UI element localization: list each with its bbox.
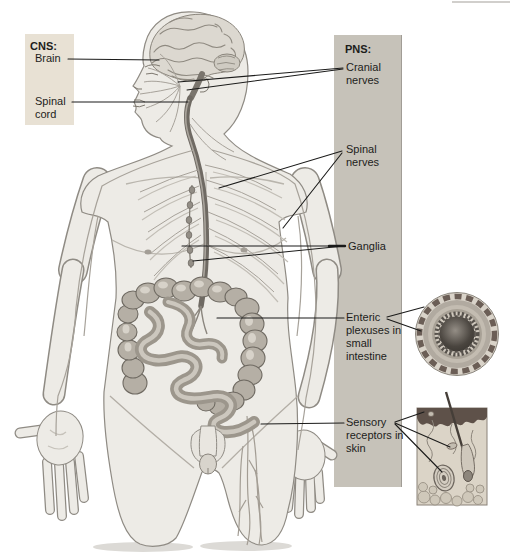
label-spinal-nerves: Spinal nerves (346, 143, 398, 169)
pns-heading: PNS: (345, 43, 371, 56)
right-arm (305, 182, 328, 397)
cerebellum (214, 54, 240, 72)
figure-canvas: CNS: Brain Spinal cord PNS: Cranial nerv… (0, 0, 510, 559)
label-enteric-plexuses: Enteric plexuses in small intestine (346, 311, 402, 363)
label-cranial-nerves: Cranial nerves (346, 61, 398, 87)
label-brain: Brain (35, 52, 61, 65)
label-sensory-receptors: Sensory receptors in skin (346, 416, 406, 455)
intestine-cross-section-inset (416, 293, 499, 376)
label-ganglia: Ganglia (348, 240, 400, 253)
skin-cross-section-inset (417, 392, 487, 506)
touch-receptor (428, 412, 434, 417)
body-illustration (0, 0, 510, 559)
hair-bulb (464, 471, 473, 482)
right-hand (20, 408, 87, 516)
label-spinal-cord: Spinal cord (35, 95, 75, 121)
